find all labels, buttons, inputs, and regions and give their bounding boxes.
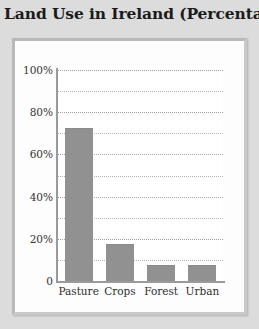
- chart-panel-inner: 020%40%60%80%100% PastureCropsForestUrba…: [15, 41, 244, 312]
- bar-urban[interactable]: [188, 265, 216, 281]
- x-axis-tick-label-crops: Crops: [104, 285, 136, 297]
- x-axis-line: [56, 281, 225, 283]
- y-axis-tick-label: 80%: [30, 106, 53, 118]
- y-axis-tick-label: 20%: [30, 233, 53, 245]
- plot-area: 020%40%60%80%100%: [58, 70, 223, 281]
- x-axis-tick-label-forest: Forest: [144, 285, 178, 297]
- y-axis-tick-label: 60%: [30, 148, 53, 160]
- x-axis-tick-label-pasture: Pasture: [58, 285, 98, 297]
- bar-forest[interactable]: [147, 265, 175, 281]
- gridline-80: [58, 112, 223, 114]
- y-axis-tick-label: 0: [46, 275, 53, 287]
- bar-crops[interactable]: [106, 244, 134, 281]
- gridline-100: [58, 70, 223, 72]
- x-axis-tick-label-urban: Urban: [186, 285, 220, 297]
- y-axis-tick-label: 100%: [23, 64, 53, 76]
- page-title: Land Use in Ireland (Percentage): [4, 2, 256, 28]
- bar-pasture[interactable]: [65, 128, 93, 281]
- chart-panel: 020%40%60%80%100% PastureCropsForestUrba…: [12, 38, 247, 315]
- gridline-90: [58, 91, 223, 93]
- y-axis-tick-label: 40%: [30, 191, 53, 203]
